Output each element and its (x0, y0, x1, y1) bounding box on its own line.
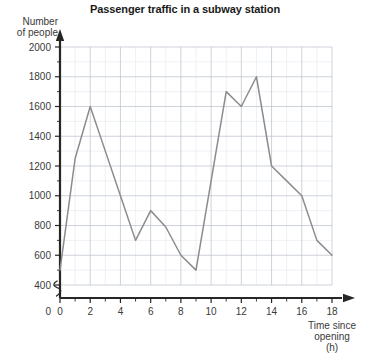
x-tick-label: 10 (206, 306, 218, 317)
x-axis-line (60, 294, 355, 302)
x-tick-label: 14 (266, 306, 278, 317)
y-axis-tick-labels: 400600800100012001400160018002000 (29, 42, 52, 291)
y-tick-label: 1800 (29, 71, 52, 82)
x-tick-label: 16 (296, 306, 308, 317)
chart-container: Passenger traffic in a subway station Nu… (0, 0, 370, 358)
y-tick-label: 400 (34, 280, 51, 291)
y-tick-label: 600 (34, 250, 51, 261)
y-tick-label: 1000 (29, 190, 52, 201)
x-tick-label: 2 (87, 306, 93, 317)
x-tick-label: 18 (326, 306, 338, 317)
y-tick-label: 2000 (29, 42, 52, 53)
y-tick-label: 1200 (29, 161, 52, 172)
x-tick-label: 8 (178, 306, 184, 317)
y-axis-line (56, 29, 64, 298)
chart-plot-area: 400600800100012001400160018002000 024681… (0, 0, 370, 358)
x-tick-label: 0 (57, 306, 63, 317)
x-tick-label: 12 (236, 306, 248, 317)
origin-label: 0 (45, 306, 51, 317)
y-tick-label: 1400 (29, 131, 52, 142)
y-tick-label: 800 (34, 220, 51, 231)
x-tick-label: 6 (148, 306, 154, 317)
x-tick-label: 4 (118, 306, 124, 317)
y-tick-label: 1600 (29, 101, 52, 112)
x-axis-tick-labels: 024681012141618 (57, 306, 338, 317)
